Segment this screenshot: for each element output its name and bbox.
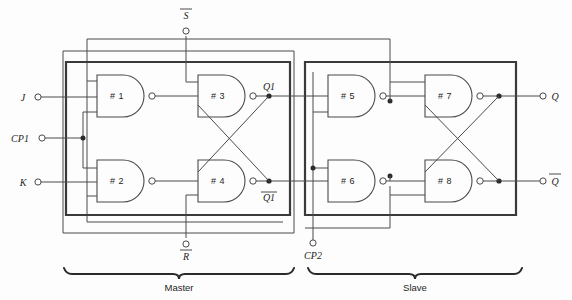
terminal-k[interactable] — [35, 179, 41, 185]
terminal-cp2[interactable] — [310, 240, 316, 246]
gate-2-label: # 2 — [110, 176, 124, 186]
gate-6-invert-bubble — [380, 178, 386, 184]
section-braces: Master Slave — [64, 268, 522, 293]
gate-5-invert-bubble — [380, 93, 386, 99]
wire-cross-q-to-g8 — [425, 96, 499, 172]
terminals: J CP1 K S R CP2 Q Q — [11, 9, 561, 262]
terminal-q-bar[interactable] — [540, 178, 546, 184]
terminal-cp1-label: CP1 — [11, 133, 29, 144]
outer-ring — [63, 51, 294, 233]
gate-5[interactable]: # 5 — [328, 75, 386, 117]
terminal-j-label: J — [21, 92, 26, 103]
wire-cross-qbar-to-g7 — [425, 105, 499, 181]
terminal-q-label: Q — [551, 91, 559, 102]
node-label-q1-bar: Q1 — [263, 192, 275, 203]
gate-3[interactable]: # 3 — [198, 75, 256, 117]
gate-1-label: # 1 — [110, 91, 124, 101]
gate-7[interactable]: # 7 — [425, 75, 483, 117]
junction-cp2 — [311, 166, 316, 171]
terminal-cp2-label: CP2 — [304, 250, 322, 261]
wire-cross-q1-to-g4 — [198, 96, 269, 172]
enclosure-lines — [63, 39, 516, 243]
terminal-r-bar-label: R — [182, 251, 189, 262]
gate-7-label: # 7 — [438, 91, 452, 101]
gate-4[interactable]: # 4 — [198, 160, 256, 202]
slave-interconnect — [386, 82, 543, 195]
gate-1-invert-bubble — [149, 93, 155, 99]
gate-4-invert-bubble — [250, 178, 256, 184]
gate-2[interactable]: # 2 — [97, 160, 155, 202]
gate-3-invert-bubble — [250, 93, 256, 99]
master-inner-ring — [87, 39, 283, 222]
slave-section-label: Slave — [403, 282, 427, 293]
wire-rbar-to-g4 — [186, 195, 198, 238]
gate-1[interactable]: # 1 — [97, 75, 155, 117]
terminal-q-bar-label: Q — [551, 176, 559, 187]
master-brace — [64, 268, 294, 279]
wire-cross-q1bar-to-g3 — [198, 105, 269, 181]
slave-inner-ring-bottom — [305, 186, 390, 228]
circuit-diagram-canvas: # 1 # 2 # 3 # 4 # 5 # 6 # 7 # 8 — [0, 0, 572, 300]
slave-brace — [308, 268, 522, 279]
gate-3-label: # 3 — [211, 91, 225, 101]
junction-cp1 — [81, 136, 86, 141]
gate-8-label: # 8 — [438, 176, 452, 186]
terminal-s-bar[interactable] — [183, 28, 189, 34]
gate-4-label: # 4 — [211, 176, 225, 186]
terminal-j[interactable] — [35, 94, 41, 100]
master-input-wires — [41, 81, 97, 196]
terminal-r-bar[interactable] — [183, 241, 189, 247]
terminal-cp1[interactable] — [39, 135, 45, 141]
master-bold-box — [66, 62, 290, 215]
master-interconnect — [155, 36, 305, 238]
gate-6-label: # 6 — [341, 176, 355, 186]
jk-master-slave-flipflop-svg: # 1 # 2 # 3 # 4 # 5 # 6 # 7 # 8 — [0, 0, 572, 300]
gate-7-invert-bubble — [477, 93, 483, 99]
node-label-q1: Q1 — [263, 81, 275, 92]
gate-8[interactable]: # 8 — [425, 160, 483, 202]
terminal-q[interactable] — [540, 93, 546, 99]
gate-8-invert-bubble — [477, 178, 483, 184]
master-section-label: Master — [164, 282, 193, 293]
slave-bold-box — [305, 62, 516, 215]
gate-2-invert-bubble — [149, 178, 155, 184]
terminal-k-label: K — [19, 177, 28, 188]
gate-6[interactable]: # 6 — [328, 160, 386, 202]
wire-sbar-to-g3 — [186, 36, 198, 82]
node-labels: Q1 Q1 — [261, 81, 277, 203]
terminal-s-bar-label: S — [184, 10, 189, 21]
gate-5-label: # 5 — [341, 91, 355, 101]
